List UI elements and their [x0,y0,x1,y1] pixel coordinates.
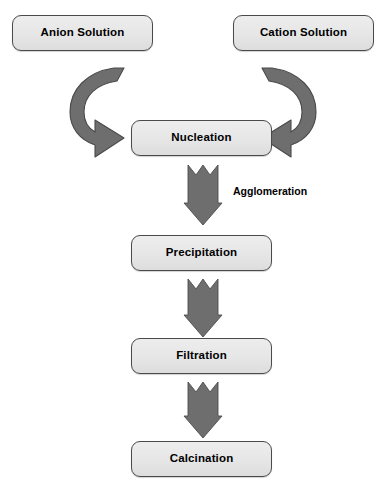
node-anion-solution-label: Anion Solution [41,27,125,39]
node-nucleation[interactable]: Nucleation [131,120,272,156]
node-anion-solution[interactable]: Anion Solution [12,15,153,51]
node-precipitation-label: Precipitation [166,247,238,259]
node-nucleation-label: Nucleation [171,132,231,144]
node-calcination-label: Calcination [170,453,234,465]
arrow-nucleation-to-precipitation [183,163,223,227]
edge-label-agglomeration-text: Agglomeration [233,185,307,197]
node-calcination[interactable]: Calcination [131,441,272,477]
process-flow-diagram: Anion Solution Cation Solution Nucleatio… [0,0,386,484]
node-filtration-label: Filtration [176,350,227,362]
node-precipitation[interactable]: Precipitation [131,235,272,271]
edge-label-agglomeration: Agglomeration [233,186,307,197]
arrow-filtration-to-calcination [183,380,223,440]
node-cation-solution[interactable]: Cation Solution [233,15,374,51]
node-filtration[interactable]: Filtration [131,338,272,374]
node-cation-solution-label: Cation Solution [260,27,347,39]
arrow-precipitation-to-filtration [183,277,223,339]
